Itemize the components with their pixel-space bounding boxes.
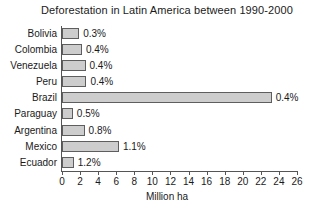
category-label: Mexico	[25, 139, 57, 155]
x-axis-tick	[297, 171, 298, 175]
bar-value-label: 0.4%	[90, 58, 113, 74]
x-axis-tick-label: 12	[165, 176, 176, 188]
category-label: Colombia	[15, 42, 57, 58]
bar-value-label: 1.2%	[78, 155, 101, 171]
x-axis-tick-label: 26	[291, 176, 302, 188]
x-axis-tick-label: 18	[219, 176, 230, 188]
category-label: Argentina	[14, 123, 57, 139]
x-axis-tick-label: 16	[201, 176, 212, 188]
bar-row: Bolivia0.3%	[62, 26, 297, 42]
bar-row: Paraguay0.5%	[62, 106, 297, 122]
category-label: Bolivia	[28, 26, 57, 42]
x-axis-tick	[116, 171, 117, 175]
x-axis-tick	[62, 171, 63, 175]
x-axis-tick	[189, 171, 190, 175]
category-label: Peru	[36, 74, 57, 90]
x-axis-tick-label: 4	[95, 176, 101, 188]
x-axis-tick	[134, 171, 135, 175]
category-label: Brazil	[32, 90, 57, 106]
bar-row: Ecuador1.2%	[62, 155, 297, 171]
x-axis-tick-label: 0	[59, 176, 65, 188]
bar-value-label: 1.1%	[123, 139, 146, 155]
category-label: Ecuador	[20, 155, 57, 171]
bar-chart: Deforestation in Latin America between 1…	[0, 0, 334, 211]
x-axis-tick-label: 22	[255, 176, 266, 188]
bar-row: Colombia0.4%	[62, 42, 297, 58]
x-axis-tick-label: 10	[147, 176, 158, 188]
bar-row: Peru0.4%	[62, 74, 297, 90]
x-axis-tick-label: 14	[183, 176, 194, 188]
x-axis-tick-label: 2	[77, 176, 83, 188]
chart-title: Deforestation in Latin America between 1…	[0, 4, 334, 16]
bar-value-label: 0.3%	[83, 26, 106, 42]
bar	[62, 108, 73, 119]
x-axis-tick	[225, 171, 226, 175]
bar-value-label: 0.4%	[90, 74, 113, 90]
bar-value-label: 0.4%	[86, 42, 109, 58]
bar-value-label: 0.8%	[89, 123, 112, 139]
bar-row: Argentina0.8%	[62, 123, 297, 139]
x-axis-tick-label: 24	[273, 176, 284, 188]
x-axis-tick	[170, 171, 171, 175]
x-axis-tick	[261, 171, 262, 175]
bar	[62, 125, 85, 136]
bar-row: Venezuela0.4%	[62, 58, 297, 74]
x-axis-line	[61, 171, 298, 172]
x-axis-label: Million ha	[0, 191, 334, 202]
bar-row: Brazil0.4%	[62, 90, 297, 106]
x-axis-tick-label: 8	[132, 176, 138, 188]
x-axis-tick	[279, 171, 280, 175]
category-label: Venezuela	[10, 58, 57, 74]
x-axis-tick	[80, 171, 81, 175]
bar-row: Mexico1.1%	[62, 139, 297, 155]
plot-area: Bolivia0.3%Colombia0.4%Venezuela0.4%Peru…	[62, 26, 297, 171]
x-axis-tick	[207, 171, 208, 175]
bar	[62, 92, 272, 103]
x-axis-tick	[98, 171, 99, 175]
x-axis-tick	[152, 171, 153, 175]
bar	[62, 141, 119, 152]
bar	[62, 44, 82, 55]
bar	[62, 157, 74, 168]
bar	[62, 28, 79, 39]
x-axis-tick-label: 20	[237, 176, 248, 188]
x-axis-tick	[243, 171, 244, 175]
bar-value-label: 0.5%	[77, 106, 100, 122]
bar	[62, 60, 86, 71]
category-label: Paraguay	[14, 106, 57, 122]
x-axis-tick-label: 6	[113, 176, 119, 188]
bar-value-label: 0.4%	[276, 90, 299, 106]
bar	[62, 76, 86, 87]
